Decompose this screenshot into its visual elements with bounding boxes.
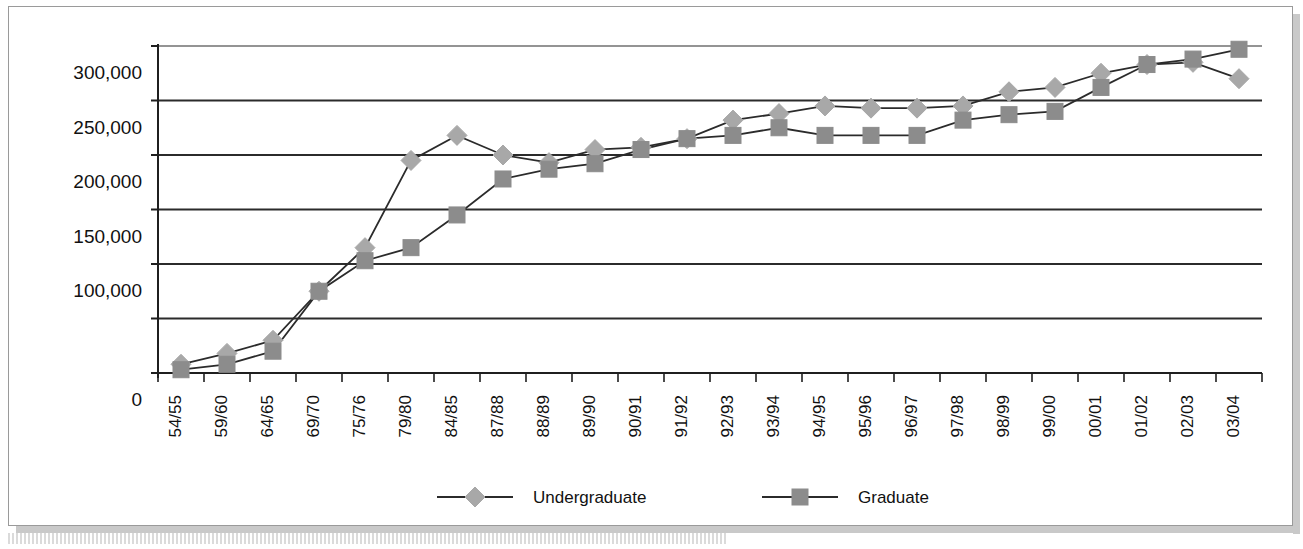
- data-point-undergraduate: [401, 150, 421, 170]
- x-axis-label: 69/70: [304, 395, 323, 438]
- x-axis-label: 93/94: [764, 395, 783, 438]
- y-axis-label: 200,000: [73, 171, 142, 192]
- x-axis-label: 87/88: [488, 395, 507, 438]
- x-axis-label: 91/92: [672, 395, 691, 438]
- data-point-graduate: [863, 127, 879, 143]
- y-axis-label: 0: [131, 389, 142, 410]
- y-axis-label: 300,000: [73, 62, 142, 83]
- data-point-undergraduate: [447, 125, 467, 145]
- x-axis-label: 03/04: [1224, 395, 1243, 438]
- data-point-graduate: [265, 343, 281, 359]
- data-point-graduate: [403, 240, 419, 256]
- chart-legend: UndergraduateGraduate: [437, 487, 929, 507]
- x-axis-label: 00/01: [1086, 395, 1105, 438]
- x-axis-label: 90/91: [626, 395, 645, 438]
- data-point-graduate: [817, 127, 833, 143]
- data-point-graduate: [587, 156, 603, 172]
- data-point-undergraduate: [1229, 69, 1249, 89]
- data-point-graduate: [495, 171, 511, 187]
- data-point-graduate: [1093, 79, 1109, 95]
- data-point-graduate: [311, 283, 327, 299]
- data-point-graduate: [955, 112, 971, 128]
- data-point-graduate: [1047, 103, 1063, 119]
- legend-marker-graduate: [792, 489, 808, 505]
- data-point-graduate: [541, 161, 557, 177]
- x-axis-label: 64/65: [258, 395, 277, 438]
- x-axis-label: 92/93: [718, 395, 737, 438]
- x-axis-label: 75/76: [350, 395, 369, 438]
- legend-label-undergraduate: Undergraduate: [533, 488, 646, 507]
- x-axis-label: 54/55: [166, 395, 185, 438]
- x-axis-label: 95/96: [856, 395, 875, 438]
- legend-marker-undergraduate: [465, 487, 485, 507]
- data-point-graduate: [1185, 51, 1201, 67]
- y-axis-tick-labels: 300,000250,000200,000150,000100,0000: [73, 62, 142, 410]
- enrollment-line-chart: 300,000250,000200,000150,000100,0000 54/…: [0, 0, 1303, 549]
- data-point-graduate: [909, 127, 925, 143]
- data-point-graduate: [725, 127, 741, 143]
- x-axis-tick-labels: 54/5559/6064/6569/7075/7679/8084/8587/88…: [166, 395, 1243, 438]
- x-axis-label: 84/85: [442, 395, 461, 438]
- data-point-graduate: [679, 131, 695, 147]
- data-point-graduate: [1231, 41, 1247, 57]
- x-axis-label: 79/80: [396, 395, 415, 438]
- x-axis-label: 01/02: [1132, 395, 1151, 438]
- data-point-graduate: [1139, 57, 1155, 73]
- y-axis-label: 250,000: [73, 117, 142, 138]
- x-axis-label: 89/90: [580, 395, 599, 438]
- figure-container: 300,000250,000200,000150,000100,0000 54/…: [0, 0, 1303, 549]
- data-point-graduate: [357, 253, 373, 269]
- data-point-graduate: [219, 356, 235, 372]
- y-axis-label: 150,000: [73, 226, 142, 247]
- data-point-graduate: [449, 207, 465, 223]
- data-point-graduate: [173, 362, 189, 378]
- data-point-graduate: [1001, 107, 1017, 123]
- data-point-undergraduate: [999, 82, 1019, 102]
- x-axis-label: 98/99: [994, 395, 1013, 438]
- x-axis-label: 02/03: [1178, 395, 1197, 438]
- data-point-undergraduate: [815, 96, 835, 116]
- x-axis-label: 99/00: [1040, 395, 1059, 438]
- x-axis-label: 94/95: [810, 395, 829, 438]
- data-point-undergraduate: [1045, 77, 1065, 97]
- y-axis-label: 100,000: [73, 280, 142, 301]
- data-point-undergraduate: [493, 145, 513, 165]
- data-point-graduate: [633, 142, 649, 158]
- x-axis-label: 96/97: [902, 395, 921, 438]
- data-point-graduate: [771, 120, 787, 136]
- x-axis-label: 59/60: [212, 395, 231, 438]
- legend-label-graduate: Graduate: [858, 488, 929, 507]
- x-axis-label: 88/89: [534, 395, 553, 438]
- x-axis-label: 97/98: [948, 395, 967, 438]
